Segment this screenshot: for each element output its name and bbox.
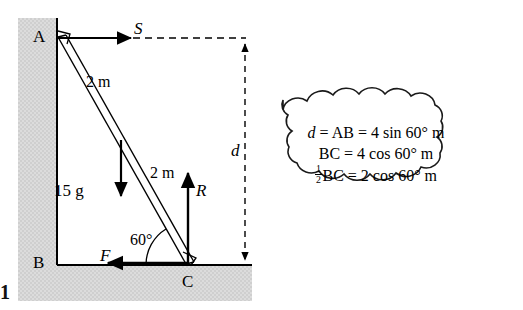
length-label-lower: 2 m — [150, 165, 174, 181]
ground-hatching — [18, 265, 252, 301]
callout-fraction-half: 12 — [315, 164, 322, 185]
force-label-weight: 15 g — [54, 182, 84, 199]
figure-canvas: A B C S R F 15 g 2 m 2 m 60° d 1 d = AB … — [0, 0, 523, 310]
callout-line-1-rest: = AB = 4 sin 60° m — [316, 124, 445, 141]
page-number-marker: 1 — [0, 282, 10, 302]
angle-label-60: 60° — [130, 232, 152, 248]
force-label-f: F — [100, 247, 110, 264]
callout-line-3-rest: BC = 2 cos 60° m — [322, 167, 437, 184]
wall-hatching — [18, 18, 57, 265]
callout-var-d: d — [308, 124, 316, 141]
point-label-c: C — [182, 273, 193, 290]
rod-ac — [58, 35, 194, 264]
callout-line-3: 12BC = 2 cos 60° m — [281, 164, 471, 186]
point-label-a: A — [33, 28, 45, 45]
callout-equations: d = AB = 4 sin 60° m BC = 4 cos 60° m 12… — [281, 122, 471, 186]
length-label-upper: 2 m — [86, 74, 110, 90]
force-label-r: R — [196, 182, 206, 199]
point-label-b: B — [33, 254, 44, 271]
force-label-s: S — [134, 20, 143, 37]
dimension-label-d: d — [231, 142, 240, 159]
callout-line-1: d = AB = 4 sin 60° m — [281, 122, 471, 143]
callout-line-2: BC = 4 cos 60° m — [281, 143, 471, 164]
